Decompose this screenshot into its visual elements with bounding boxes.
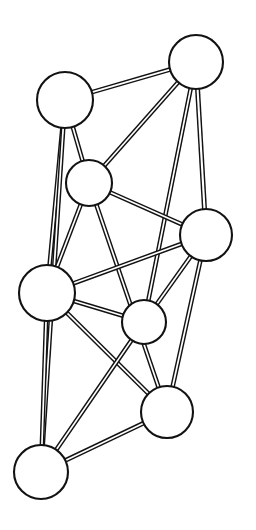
graph-node [141, 386, 193, 438]
graph-node [122, 300, 166, 344]
graph-node [14, 445, 68, 499]
graph-node [169, 35, 223, 89]
graph-node [66, 160, 112, 206]
graph-node [37, 72, 93, 128]
graph-node [180, 209, 232, 261]
graph-diagram [0, 0, 256, 530]
graph-node [19, 265, 75, 321]
figure-root [0, 0, 256, 530]
